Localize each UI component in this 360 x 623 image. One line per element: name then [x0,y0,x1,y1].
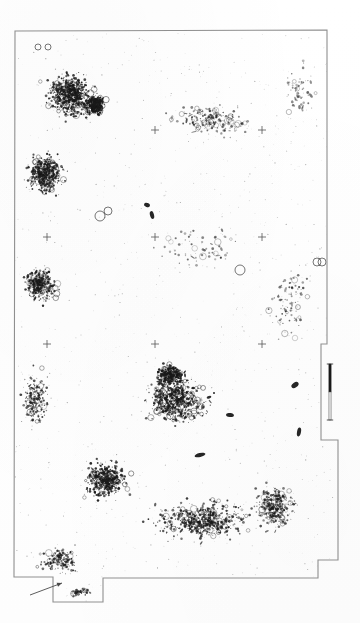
site-plan-page [0,0,360,623]
grid-cross-4 [258,233,266,241]
grid-cross-5 [43,340,51,348]
north-arrow [30,583,62,595]
site-outline [14,30,338,602]
distribution-plan [0,0,360,623]
scale-bar [327,364,333,420]
grid-cross-marks-layer [43,126,266,348]
grid-cross-7 [258,340,266,348]
north-arrow-head [57,583,62,587]
grid-cross-1 [258,126,266,134]
grid-cross-2 [43,233,51,241]
grid-cross-6 [151,340,159,348]
grid-cross-3 [151,233,159,241]
grid-cross-0 [151,126,159,134]
artifact-marks-layer [14,32,338,606]
